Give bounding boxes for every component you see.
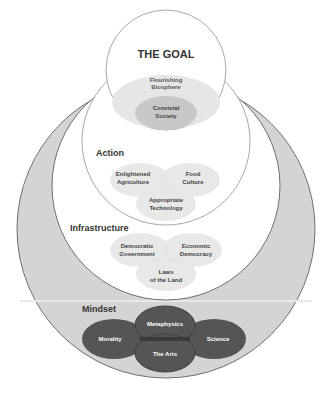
appropriate-technology-ellipse: [136, 187, 196, 221]
appropriate-label-1: Appropriate: [149, 197, 184, 203]
flourishing-label-2: Biosphere: [151, 84, 181, 90]
convivial-label-1: Convivial: [153, 105, 180, 111]
action-title: Action: [96, 148, 124, 158]
convivial-label-2: Society: [155, 113, 177, 119]
democratic-label-2: Government: [119, 251, 154, 257]
enlightened-label-2: Agriculture: [117, 179, 150, 185]
laws-label-1: Laws: [158, 269, 174, 275]
food-label-1: Food: [186, 171, 201, 177]
democratic-label-1: Democratic: [121, 243, 154, 249]
infrastructure-title: Infrastructure: [70, 223, 129, 233]
mindset-title: Mindset: [82, 304, 116, 314]
metaphysics-label: Metaphysics: [147, 321, 184, 327]
diagram-canvas: THE GOAL Flourishing Biosphere Convivial…: [0, 0, 333, 397]
flourishing-label-1: Flourishing: [150, 77, 183, 83]
appropriate-label-2: Technology: [149, 205, 183, 211]
economic-label-2: Democracy: [180, 251, 213, 257]
laws-label-2: of the Land: [150, 277, 183, 283]
economic-label-1: Economic: [182, 243, 211, 249]
science-label: Science: [207, 336, 230, 342]
goal-title: THE GOAL: [138, 48, 195, 60]
morality-label: Morality: [98, 336, 122, 342]
food-label-2: Culture: [183, 179, 205, 185]
the-arts-label: The Arts: [153, 351, 178, 357]
enlightened-label-1: Enlightened: [116, 171, 151, 177]
mindset-overlap: [140, 337, 190, 341]
